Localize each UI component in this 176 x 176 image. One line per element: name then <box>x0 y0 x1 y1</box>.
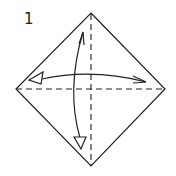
horizontal-fold-unfold-arrow <box>29 72 146 84</box>
horizontal-arrow-curve <box>42 74 146 82</box>
vertical-arrow-curve <box>74 32 83 138</box>
vertical-fold-unfold-arrow <box>74 32 86 149</box>
hollow-arrowhead-bottom-icon <box>74 137 86 149</box>
origami-diagram <box>0 0 176 176</box>
